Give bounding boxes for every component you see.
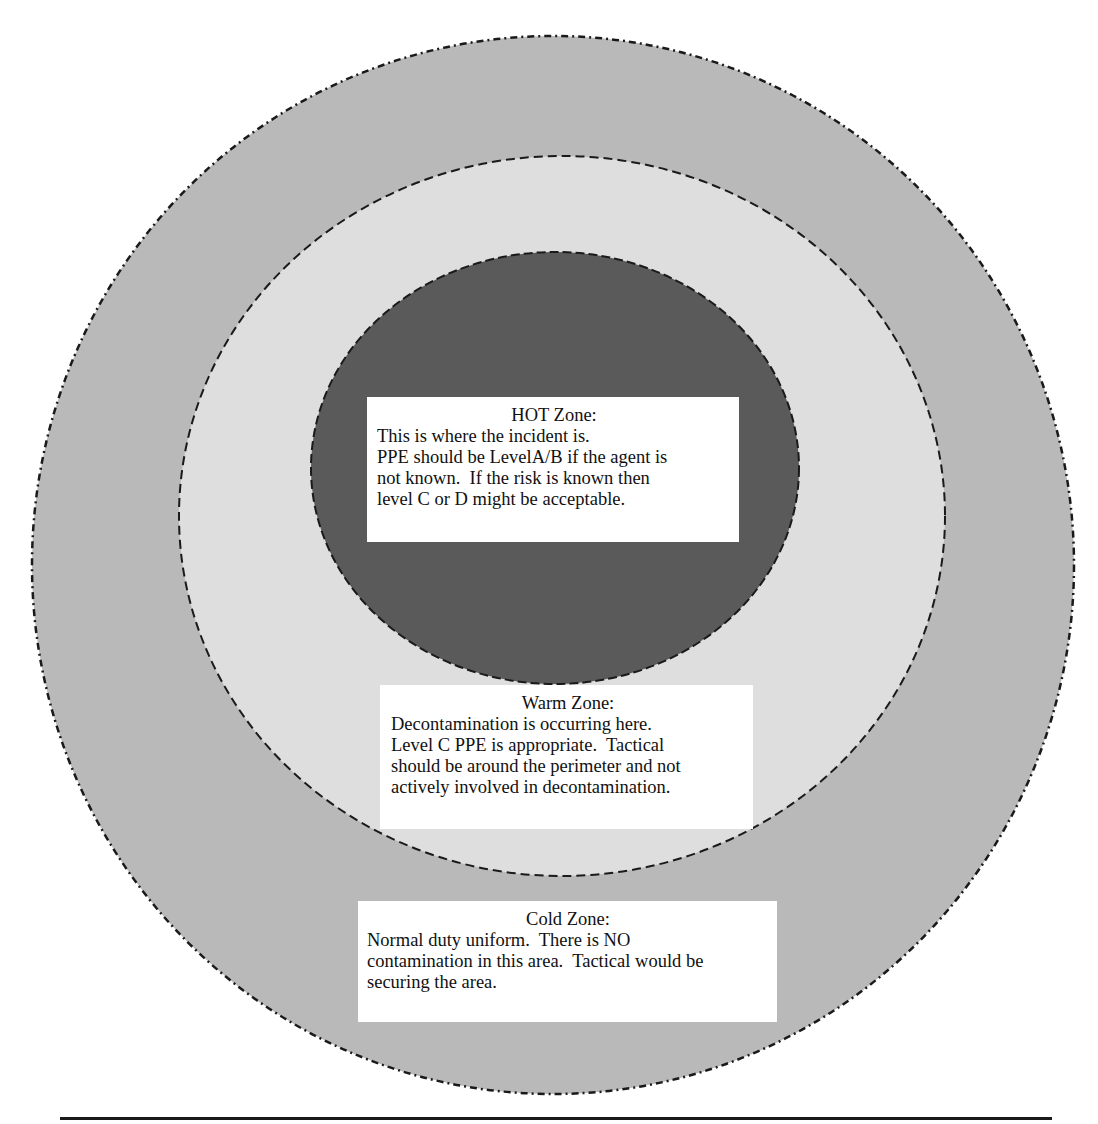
- warm-zone-title: Warm Zone:: [391, 693, 745, 714]
- warm-zone-label-box: Warm Zone: Decontamination is occurring …: [380, 685, 753, 829]
- hot-zone-line: not known. If the risk is known then: [377, 468, 731, 489]
- warm-zone-line: actively involved in decontamination.: [391, 777, 745, 798]
- cold-zone-label-box: Cold Zone: Normal duty uniform. There is…: [358, 901, 777, 1022]
- cold-zone-line: securing the area.: [367, 972, 769, 993]
- cold-zone-title: Cold Zone:: [367, 909, 769, 930]
- hot-zone-label-box: HOT Zone: This is where the incident is.…: [367, 397, 739, 542]
- hot-zone-line: This is where the incident is.: [377, 426, 731, 447]
- warm-zone-line: Decontamination is occurring here.: [391, 714, 745, 735]
- hot-zone-title: HOT Zone:: [377, 405, 731, 426]
- warm-zone-line: should be around the perimeter and not: [391, 756, 745, 777]
- horizontal-divider: [60, 1117, 1052, 1120]
- hot-zone-line: level C or D might be acceptable.: [377, 489, 731, 510]
- cold-zone-line: Normal duty uniform. There is NO: [367, 930, 769, 951]
- warm-zone-line: Level C PPE is appropriate. Tactical: [391, 735, 745, 756]
- cold-zone-line: contamination in this area. Tactical wou…: [367, 951, 769, 972]
- hot-zone-line: PPE should be LevelA/B if the agent is: [377, 447, 731, 468]
